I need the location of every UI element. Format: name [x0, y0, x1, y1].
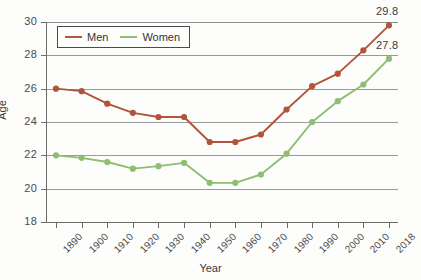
x-tick-mark	[158, 223, 159, 228]
data-point-men	[309, 83, 315, 89]
data-point-women	[104, 159, 110, 165]
series-container	[47, 22, 398, 222]
legend: MenWomen	[57, 26, 190, 48]
legend-item-men: Men	[65, 31, 108, 43]
legend-label: Women	[142, 31, 180, 43]
legend-item-women: Women	[120, 31, 180, 43]
plot-area	[47, 22, 398, 222]
x-axis-line	[47, 222, 398, 223]
data-point-men	[104, 101, 110, 107]
x-tick-label: 1950	[214, 231, 238, 255]
x-tick-mark	[312, 223, 313, 228]
x-tick-mark	[235, 223, 236, 228]
data-point-men	[258, 131, 264, 137]
x-tick-label: 1940	[189, 231, 213, 255]
data-point-men	[207, 139, 213, 145]
x-tick-mark	[56, 223, 57, 228]
data-point-men	[386, 22, 392, 28]
y-axis-title: Age	[0, 100, 8, 120]
x-tick-mark	[184, 223, 185, 228]
y-tick-label: 26	[24, 82, 37, 94]
data-point-men	[283, 106, 289, 112]
x-tick-label: 1930	[163, 231, 187, 255]
data-point-men	[155, 114, 161, 120]
data-label-women: 27.8	[376, 39, 398, 51]
data-point-women	[53, 152, 59, 158]
y-tick-label: 20	[24, 182, 37, 194]
legend-label: Men	[87, 31, 108, 43]
x-tick-mark	[389, 223, 390, 228]
x-tick-mark	[133, 223, 134, 228]
y-tick-label: 28	[24, 48, 37, 60]
x-tick-label: 1920	[137, 231, 161, 255]
line-chart: Age 18202224262830 189019001910192019301…	[0, 0, 421, 280]
legend-swatch-men	[65, 36, 82, 38]
data-point-women	[181, 160, 187, 166]
legend-swatch-women	[120, 36, 137, 38]
x-tick-label: 1990	[317, 231, 341, 255]
x-tick-mark	[338, 223, 339, 228]
data-point-women	[155, 163, 161, 169]
x-tick-mark	[363, 223, 364, 228]
data-point-women	[258, 171, 264, 177]
data-point-women	[79, 155, 85, 161]
x-tick-mark	[261, 223, 262, 228]
x-tick-label: 1890	[61, 231, 85, 255]
x-tick-label: 1980	[291, 231, 315, 255]
x-tick-mark	[287, 223, 288, 228]
y-tick-label: 24	[24, 115, 37, 127]
data-point-women	[309, 119, 315, 125]
x-tick-mark	[82, 223, 83, 228]
data-point-men	[335, 71, 341, 77]
data-point-women	[360, 81, 366, 87]
data-point-men	[360, 47, 366, 53]
data-point-women	[130, 166, 136, 172]
data-point-men	[181, 114, 187, 120]
x-axis-title: Year	[0, 262, 421, 274]
data-point-men	[232, 139, 238, 145]
y-tick-mark	[41, 222, 47, 223]
x-tick-label: 1910	[112, 231, 136, 255]
x-tick-label: 2010	[368, 231, 392, 255]
x-tick-label: 2000	[342, 231, 366, 255]
data-point-women	[335, 98, 341, 104]
x-tick-label: 1970	[266, 231, 290, 255]
data-point-men	[53, 86, 59, 92]
x-tick-label: 1900	[86, 231, 110, 255]
data-point-women	[232, 180, 238, 186]
x-tick-mark	[210, 223, 211, 228]
data-point-men	[79, 88, 85, 94]
x-tick-label: 1960	[240, 231, 264, 255]
data-point-women	[207, 180, 213, 186]
data-point-women	[283, 151, 289, 157]
data-label-men: 29.8	[376, 5, 398, 17]
data-point-women	[386, 56, 392, 62]
y-tick-label: 18	[24, 215, 37, 227]
data-point-men	[130, 110, 136, 116]
x-tick-mark	[107, 223, 108, 228]
x-tick-label: 2018	[394, 231, 418, 255]
y-tick-label: 22	[24, 148, 37, 160]
y-tick-label: 30	[24, 15, 37, 27]
